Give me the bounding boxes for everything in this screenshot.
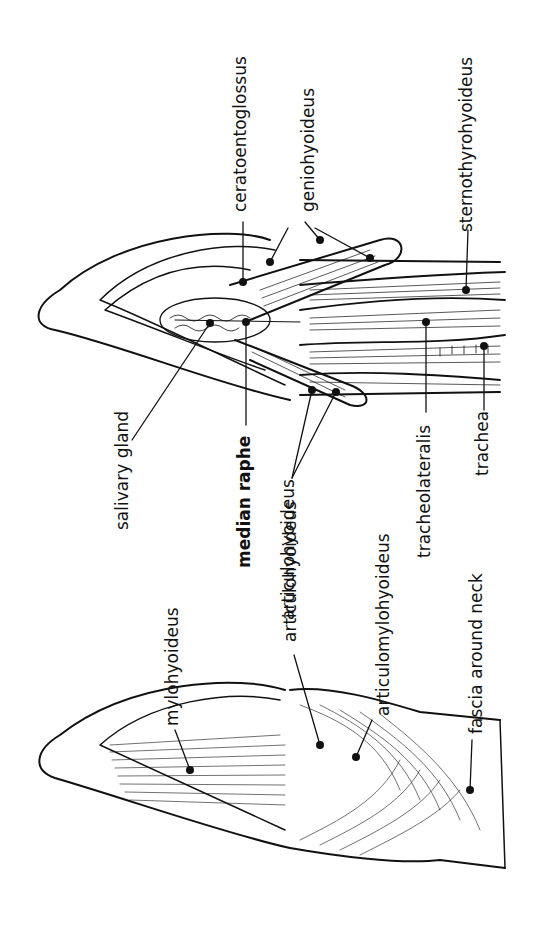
label-mylohyoideus: mylohyoideus <box>164 607 181 726</box>
label-geniohyoideus: geniohyoideus <box>300 88 317 212</box>
label-sternothyrohyoideus: sternothyrohyoideus <box>458 57 475 232</box>
label-salivary-gland: salivary gland <box>114 411 131 530</box>
label-fascia-around-neck: fascia around neck <box>468 573 485 734</box>
label-tracheolateralis: tracheolateralis <box>416 425 433 558</box>
label-trachea: trachea <box>474 411 491 476</box>
label-median-raphe: median raphe <box>236 436 253 568</box>
label-ceratoentoglossus: ceratoentoglossus <box>232 56 249 212</box>
superficial-drawing <box>39 683 505 868</box>
label-articulohyoideus-superficial: articulohyoideus <box>282 501 299 642</box>
anatomy-figure: salivary gland median raphe articulohyoi… <box>0 0 550 948</box>
label-articulomylohyoideus: articulomylohyoideus <box>375 533 392 716</box>
